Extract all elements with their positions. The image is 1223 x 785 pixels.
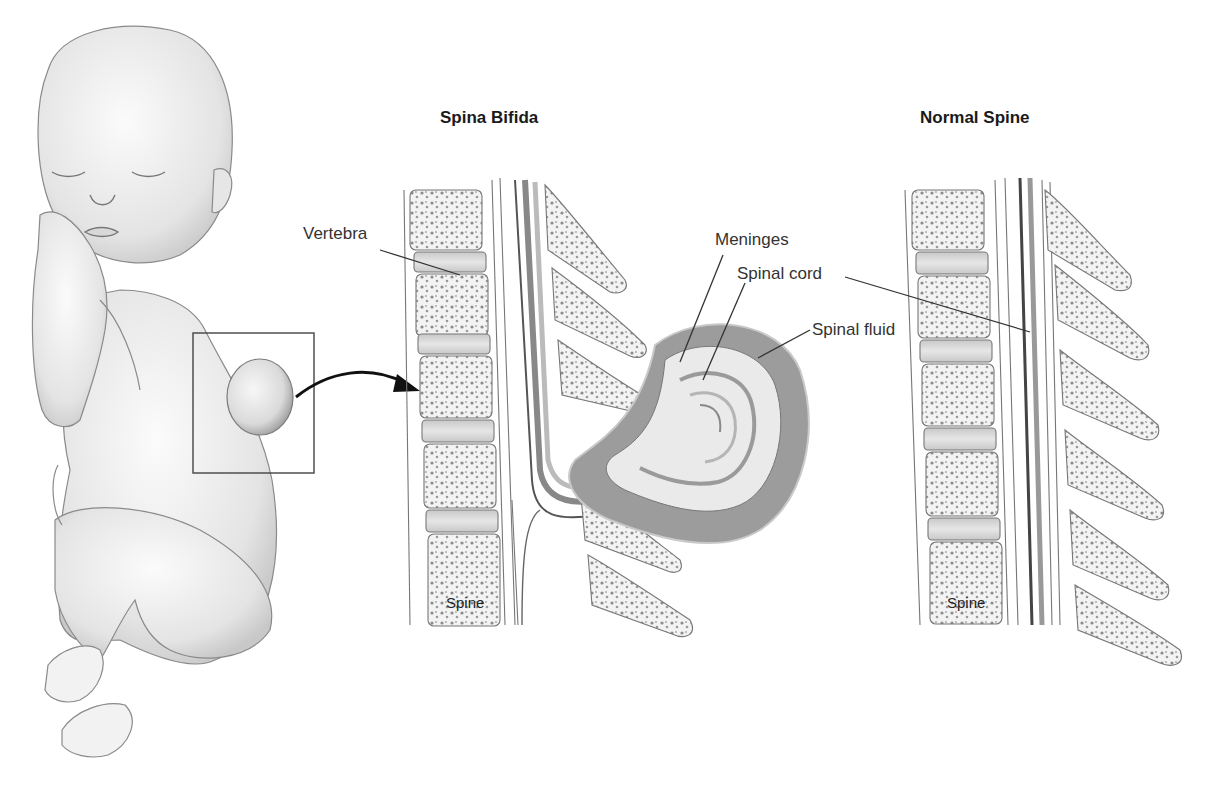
spina-bifida-figure: Spina Bifida Normal Spine Vertebra Menin… xyxy=(0,0,1223,785)
panel-title-spina-bifida: Spina Bifida xyxy=(440,108,538,128)
illustration xyxy=(0,0,1223,785)
sac-lesion xyxy=(227,359,293,435)
label-spinal-fluid: Spinal fluid xyxy=(812,320,895,340)
label-vertebra: Vertebra xyxy=(303,224,367,244)
sac-cross-section xyxy=(569,324,808,543)
label-spinal-cord: Spinal cord xyxy=(737,264,822,284)
panel-title-normal-spine: Normal Spine xyxy=(920,108,1030,128)
label-spine-left: Spine xyxy=(446,594,484,611)
label-spine-right: Spine xyxy=(947,594,985,611)
label-meninges: Meninges xyxy=(715,230,789,250)
normal-spine xyxy=(905,178,1181,665)
